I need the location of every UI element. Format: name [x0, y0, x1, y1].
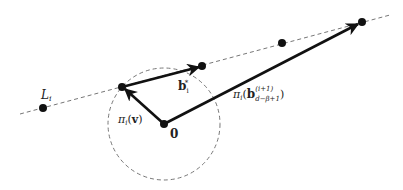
- point-mid: [278, 39, 286, 47]
- label-b-star: bi*: [178, 79, 189, 95]
- point-origin: [160, 120, 168, 128]
- label-pi-v: πi(v): [117, 113, 142, 127]
- point-L: [39, 104, 47, 112]
- vector-pi-b-long: [164, 24, 358, 124]
- label-L: Li: [40, 88, 52, 103]
- point-pi-v: [118, 83, 126, 91]
- label-origin: 0: [170, 127, 178, 141]
- label-pi-b-long: πi(b(i+1)d−β+1): [232, 85, 284, 103]
- point-far: [358, 18, 366, 26]
- point-b-star: [198, 62, 206, 70]
- diagram-canvas: Li 0 πi(v) bi* πi(b(i+1)d−β+1): [0, 0, 403, 190]
